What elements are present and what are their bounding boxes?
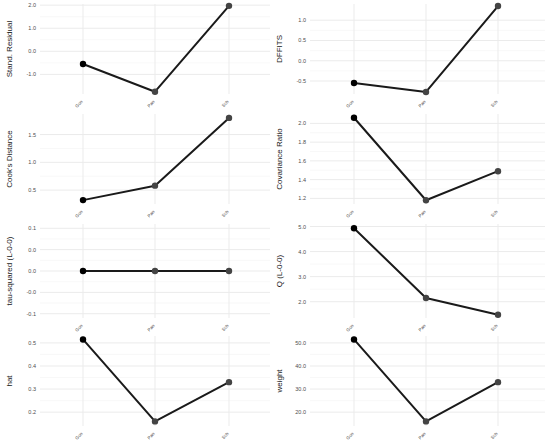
data-point <box>152 88 158 94</box>
x-tick-label: Pan <box>418 431 428 441</box>
y-tick-label: 1.0 <box>28 159 36 165</box>
y-tick-label: 0.2 <box>28 409 36 415</box>
x-tick-label: Gon <box>74 99 84 109</box>
y-axis-label: hat <box>5 375 14 387</box>
y-tick-label: 0.0 <box>28 247 36 253</box>
y-axis-label: tau-squared (L-0-0) <box>5 236 14 305</box>
x-tick-label: Sch <box>490 99 499 108</box>
y-tick-label: -0.0 <box>27 289 36 295</box>
data-point <box>423 89 429 95</box>
y-tick-label: -1.0 <box>27 71 36 77</box>
data-point <box>80 61 86 67</box>
chart-panel-cook-s-distance: 0.51.01.5Cook's DistanceGonPanSch <box>5 114 270 219</box>
data-point <box>351 336 357 342</box>
x-tick-label: Pan <box>147 99 157 109</box>
data-point <box>226 268 232 274</box>
y-tick-label: 20.0 <box>295 409 306 415</box>
y-tick-label: 1.6 <box>298 158 306 164</box>
x-tick-label: Sch <box>490 323 499 332</box>
x-tick-label: Sch <box>221 323 230 332</box>
x-tick-label: Sch <box>221 431 230 440</box>
x-tick-label: Gon <box>345 323 355 333</box>
y-tick-label: -0.5 <box>297 78 306 84</box>
y-tick-label: 2.0 <box>298 120 306 126</box>
y-tick-label: 40.0 <box>295 363 306 369</box>
y-tick-label: 4.0 <box>298 249 306 255</box>
y-axis-label: weight <box>275 369 284 394</box>
data-point <box>80 336 86 342</box>
y-tick-label: 0.0 <box>28 268 36 274</box>
x-tick-label: Pan <box>418 99 428 109</box>
y-tick-label: 0.5 <box>28 340 36 346</box>
y-tick-label: 1.0 <box>298 17 306 23</box>
data-line <box>83 339 229 421</box>
y-tick-label: 5.0 <box>298 224 306 230</box>
y-axis-label: DFFITS <box>275 35 284 63</box>
y-tick-label: 0.0 <box>298 58 306 64</box>
x-tick-label: Pan <box>418 209 428 219</box>
chart-panel-stand-residual: -1.00.01.02.0Stand. ResidualGonPanSch <box>5 2 270 109</box>
data-point <box>495 379 501 385</box>
y-tick-label: 1.4 <box>298 177 306 183</box>
chart-panel-hat: 0.20.30.40.5hatGonPanSch <box>5 336 270 441</box>
data-point <box>423 295 429 301</box>
y-tick-label: 1.5 <box>28 132 36 138</box>
y-tick-label: 2.0 <box>28 2 36 8</box>
data-point <box>152 182 158 188</box>
y-axis-label: Stand. Residual <box>5 21 14 78</box>
x-tick-label: Gon <box>345 209 355 219</box>
data-point <box>152 418 158 424</box>
y-tick-label: 0.4 <box>28 363 36 369</box>
data-point <box>80 197 86 203</box>
y-tick-label: 50.0 <box>295 340 306 346</box>
data-point <box>226 3 232 9</box>
chart-panel-q-l-0-0-: 2.03.04.05.0Q (L-0-0)GonPanSch <box>275 224 545 333</box>
data-line <box>83 6 229 92</box>
x-tick-label: Pan <box>147 323 157 333</box>
data-point <box>226 379 232 385</box>
data-point <box>423 418 429 424</box>
x-tick-label: Sch <box>490 209 499 218</box>
data-point <box>495 3 501 9</box>
diagnostic-plots-grid: -1.00.01.02.0Stand. ResidualGonPanSch-0.… <box>0 0 551 445</box>
x-tick-label: Gon <box>345 99 355 109</box>
y-tick-label: 0.3 <box>28 386 36 392</box>
chart-panel-dffits: -0.50.00.51.0DFFITSGonPanSch <box>275 3 545 109</box>
chart-panel-covariance-ratio: 1.21.41.61.82.0Covariance RatioGonPanSch <box>275 114 545 219</box>
y-tick-label: 1.0 <box>28 25 36 31</box>
y-axis-label: Covariance Ratio <box>275 128 284 190</box>
data-point <box>80 268 86 274</box>
y-tick-label: -0.1 <box>27 311 36 317</box>
y-tick-label: 3.0 <box>298 274 306 280</box>
y-tick-label: 1.8 <box>298 139 306 145</box>
y-axis-label: Cook's Distance <box>5 130 14 188</box>
data-point <box>351 80 357 86</box>
x-tick-label: Gon <box>345 431 355 441</box>
x-tick-label: Gon <box>74 323 84 333</box>
x-tick-label: Sch <box>221 209 230 218</box>
y-tick-label: 0.5 <box>28 187 36 193</box>
y-tick-label: 0.1 <box>28 225 36 231</box>
y-tick-label: 0.0 <box>28 48 36 54</box>
chart-panel-weight: 20.030.040.050.0weightGonPanSch <box>275 336 545 441</box>
x-tick-label: Pan <box>147 209 157 219</box>
data-point <box>226 115 232 121</box>
y-tick-label: 30.0 <box>295 386 306 392</box>
x-tick-label: Sch <box>221 99 230 108</box>
data-point <box>495 168 501 174</box>
y-tick-label: 1.2 <box>298 195 306 201</box>
data-point <box>423 197 429 203</box>
x-tick-label: Pan <box>418 323 428 333</box>
data-point <box>495 312 501 318</box>
y-tick-label: 0.5 <box>298 37 306 43</box>
data-point <box>152 268 158 274</box>
x-tick-label: Gon <box>74 209 84 219</box>
y-axis-label: Q (L-0-0) <box>275 254 284 287</box>
data-point <box>351 225 357 231</box>
x-tick-label: Gon <box>74 431 84 441</box>
x-tick-label: Sch <box>490 431 499 440</box>
x-tick-label: Pan <box>147 431 157 441</box>
chart-panel-tau-squared-l-0-0-: -0.1-0.00.00.00.1tau-squared (L-0-0)GonP… <box>5 224 270 333</box>
data-point <box>351 115 357 121</box>
y-tick-label: 2.0 <box>298 299 306 305</box>
